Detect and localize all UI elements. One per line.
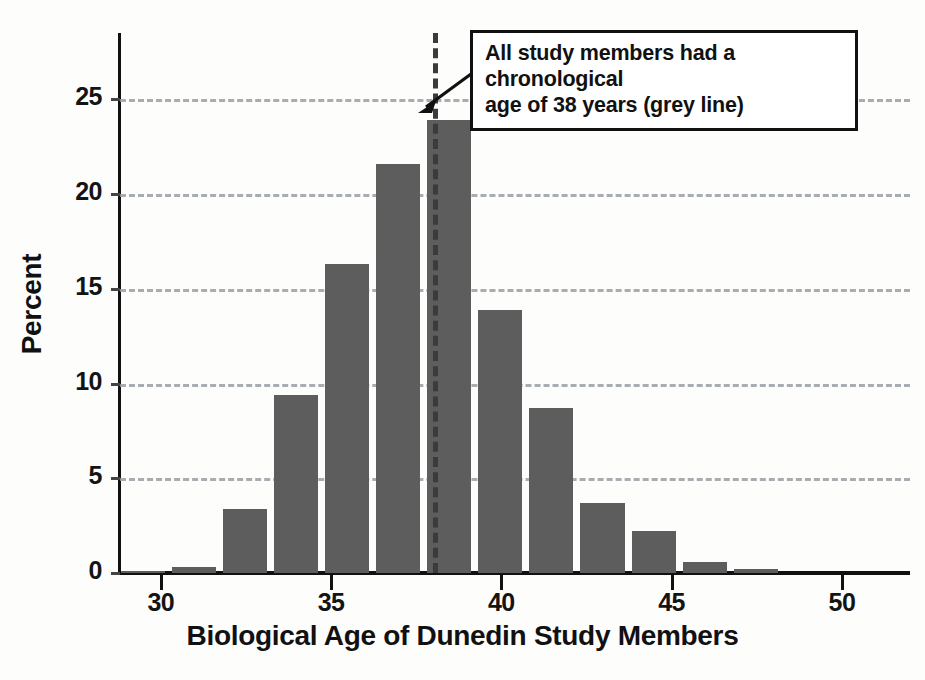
annotation-line-1: All study members had a chronological [485,41,735,91]
y-tick-mark-0 [111,572,120,575]
y-tick-label-15: 15 [75,272,102,301]
y-tick-label-25: 25 [75,82,102,111]
bar [172,567,216,573]
y-tick-label-5: 5 [89,461,102,490]
y-tick-mark-10 [111,383,120,386]
bar [325,264,369,573]
bar [223,509,267,573]
y-axis-title: Percent [16,174,48,434]
bar [274,395,318,573]
histogram-figure: Percent 0510152025 3035404550 All study … [0,0,925,680]
bar [529,408,573,573]
y-tick-mark-20 [111,193,120,196]
y-tick-label-10: 10 [75,367,102,396]
x-tick-label-30: 30 [121,588,201,617]
x-tick-label-45: 45 [632,588,712,617]
x-axis-title: Biological Age of Dunedin Study Members [0,620,925,652]
y-tick-mark-25 [111,98,120,101]
bar [734,569,778,573]
x-tick-label-35: 35 [291,588,371,617]
bar [683,562,727,573]
bar [121,571,165,573]
y-tick-mark-5 [111,477,120,480]
gridline-15 [120,289,910,292]
bar [580,503,624,573]
annotation-callout: All study members had a chronological ag… [470,30,858,131]
annotation-line-2: age of 38 years (grey line) [485,92,845,118]
y-tick-label-20: 20 [75,177,102,206]
bar [632,531,676,573]
gridline-20 [120,194,910,197]
y-tick-mark-15 [111,288,120,291]
bar [376,164,420,573]
x-tick-label-50: 50 [802,588,882,617]
y-tick-label-0: 0 [89,556,102,585]
x-tick-label-40: 40 [461,588,541,617]
bar [478,310,522,573]
